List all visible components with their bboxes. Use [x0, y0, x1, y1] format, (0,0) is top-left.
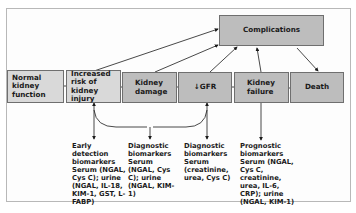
node-label: Kidney damage [135, 79, 172, 96]
node-kidney-failure: Kidney failure [234, 72, 289, 103]
biomarkers-diagnostic-1: Diagnostic biomarkers Serum (NGAL, Cys C… [128, 142, 180, 198]
biomarkers-early-detection: Early detection biomarkers Serum (NGAL, … [72, 142, 128, 206]
biomarker-title: Prognostic biomarkers [240, 142, 300, 158]
biomarker-text: Serum (NGAL, Cys C); urine (NGAL, IL-18,… [72, 166, 126, 206]
biomarker-text: Serum (NGAL, Cys C); urine (NGAL, KIM-1) [128, 158, 174, 198]
biomarker-text: Serum (creatinine, urea, Cys C) [184, 158, 230, 182]
node-label: Complications [243, 26, 300, 34]
node-gfr: ↓GFR [178, 72, 232, 103]
biomarker-title: Diagnostic biomarkers [184, 142, 232, 158]
biomarker-title: Diagnostic biomarkers [128, 142, 180, 158]
biomarkers-prognostic: Prognostic biomarkers Serum (NGAL, Cys C… [240, 142, 300, 206]
node-label: Death [305, 83, 329, 91]
node-normal-kidney-function: Normal kidney function [7, 70, 64, 103]
node-complications: Complications [219, 15, 324, 46]
biomarkers-diagnostic-2: Diagnostic biomarkers Serum (creatinine,… [184, 142, 232, 182]
biomarker-text: Serum (NGAL, Cys C, creatinine, urea, IL… [240, 158, 294, 206]
node-label: Normal kidney function [12, 74, 59, 99]
node-kidney-damage: Kidney damage [122, 72, 177, 103]
biomarker-title: Early detection biomarkers [72, 142, 128, 166]
node-label: ↓GFR [194, 83, 216, 91]
node-death: Death [290, 72, 344, 103]
node-label: Kidney failure [247, 79, 284, 96]
node-increased-risk: Increased risk of kidney injury [66, 70, 121, 103]
node-label: Increased risk of kidney injury [71, 70, 116, 103]
